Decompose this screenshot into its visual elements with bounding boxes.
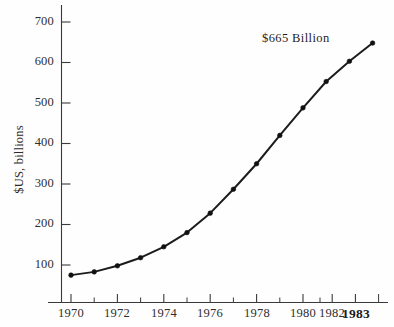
data-point [162, 244, 167, 249]
data-point [278, 133, 283, 138]
x-tick-label-1978: 1978 [232, 306, 282, 321]
data-point [69, 273, 74, 278]
y-axis-title: $US, billions [12, 110, 27, 210]
data-annotation-665-billion: $665 Billion [262, 31, 330, 46]
data-point [138, 255, 143, 260]
data-point [92, 270, 97, 275]
x-axis-minor-ticks [94, 294, 378, 303]
y-axis-ticks [62, 22, 71, 265]
x-tick-label-1972: 1972 [92, 306, 142, 321]
y-tick-label-100: 100 [14, 257, 54, 272]
data-series-line [71, 43, 373, 275]
x-tick-label-1983: 1983 [331, 306, 381, 322]
data-point [208, 211, 213, 216]
data-series-markers [69, 41, 375, 278]
data-point [185, 230, 190, 235]
chart-plot-area [0, 0, 394, 327]
data-point [231, 187, 236, 192]
y-tick-label-700: 700 [14, 14, 54, 29]
y-tick-label-600: 600 [14, 54, 54, 69]
data-point [324, 79, 329, 84]
y-tick-label-200: 200 [14, 216, 54, 231]
x-tick-label-1970: 1970 [46, 306, 96, 321]
chart-container: 700 600 500 400 300 200 100 1970 1972 19… [0, 0, 394, 327]
x-axis-major-ticks [71, 294, 355, 303]
x-tick-label-1976: 1976 [185, 306, 235, 321]
data-point [301, 106, 306, 111]
y-tick-label-500: 500 [14, 95, 54, 110]
data-point [347, 59, 352, 64]
data-point [370, 41, 375, 46]
x-tick-label-1974: 1974 [139, 306, 189, 321]
data-point [254, 161, 259, 166]
data-point [115, 264, 120, 269]
